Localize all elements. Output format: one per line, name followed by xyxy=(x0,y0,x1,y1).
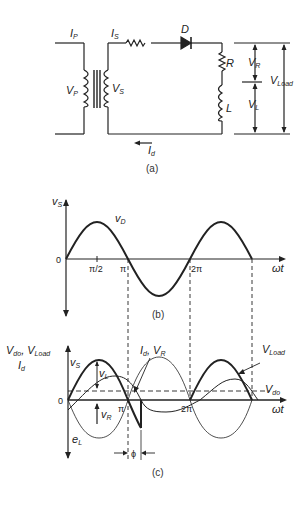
svg-text:eL: eL xyxy=(72,433,82,446)
svg-text:vL: vL xyxy=(99,367,109,380)
label-l: L xyxy=(226,102,232,114)
plot-b-labels: vS vD 0 π/2 π 2π ωt (b) xyxy=(52,195,285,320)
svg-text:IP: IP xyxy=(70,27,78,40)
diode-icon xyxy=(181,37,191,49)
svg-text:vR: vR xyxy=(101,408,112,421)
svg-text:Vdo: Vdo xyxy=(265,383,280,396)
plot-c xyxy=(65,345,287,460)
primary-coil-icon xyxy=(84,70,88,107)
svg-text:vD: vD xyxy=(115,212,126,225)
svg-text:VLoad: VLoad xyxy=(262,343,286,356)
plot-c-tick-pi: π xyxy=(118,404,124,414)
svg-text:VP: VP xyxy=(66,84,78,97)
svg-text:VL: VL xyxy=(248,98,259,111)
svg-text:Id: Id xyxy=(18,359,26,372)
caption-a: (a) xyxy=(146,163,158,174)
plot-b-xlabel: ωt xyxy=(272,262,285,274)
plot-c-tick-2pi: 2π xyxy=(181,404,192,414)
circuit-schematic xyxy=(55,37,290,146)
vload-curve xyxy=(190,360,252,400)
series-resistor-icon xyxy=(126,40,145,46)
plot-b-tick-pi: π xyxy=(120,264,126,274)
label-r: R xyxy=(226,57,234,69)
svg-text:VS: VS xyxy=(112,82,124,95)
caption-b: (b) xyxy=(152,309,164,320)
caption-c: (c) xyxy=(152,467,164,478)
current-arrow-icon xyxy=(134,141,140,146)
plot-b-origin: 0 xyxy=(56,255,61,265)
plot-b-tick-2pi: 2π xyxy=(191,264,202,274)
el-curve xyxy=(68,357,252,438)
svg-text:Id: Id xyxy=(148,144,156,157)
plot-c-origin: 0 xyxy=(58,396,63,406)
svg-text:IS: IS xyxy=(111,27,119,40)
half-wave-rectifier-diagram: IP IS D VP VS R L VR VL VLoad Id (a) vS … xyxy=(0,0,308,506)
label-diode: D xyxy=(181,23,189,35)
inductor-icon xyxy=(219,85,223,121)
plot-c-phi: ϕ xyxy=(131,449,136,459)
plot-c-xlabel: ωt xyxy=(272,403,285,415)
plot-b-tick-pi-2: π/2 xyxy=(89,264,103,274)
svg-text:VR: VR xyxy=(248,56,260,69)
svg-text:Vdo, VLoad: Vdo, VLoad xyxy=(6,344,51,357)
load-resistor-icon xyxy=(219,52,225,71)
svg-text:vS: vS xyxy=(70,356,81,369)
svg-text:VLoad: VLoad xyxy=(270,74,294,87)
svg-text:Id, VR: Id, VR xyxy=(140,344,165,357)
svg-text:vS: vS xyxy=(52,195,63,208)
secondary-coil-icon xyxy=(104,70,108,107)
